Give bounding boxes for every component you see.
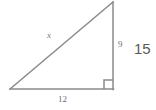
- diagram-canvas: x 9 12 15: [0, 0, 156, 110]
- right-angle-marker-icon: [104, 80, 113, 89]
- hypotenuse-label: x: [47, 31, 51, 40]
- vertical-leg-label: 9: [118, 40, 123, 49]
- base-leg-label: 12: [58, 95, 67, 104]
- triangle-hypotenuse-line: [10, 2, 113, 89]
- right-triangle-figure: [0, 0, 156, 110]
- extra-value-label: 15: [134, 41, 151, 56]
